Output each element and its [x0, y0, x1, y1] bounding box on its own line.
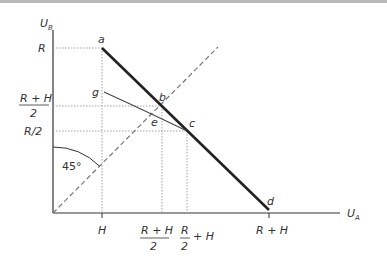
x-tick-rh: R + H — [256, 224, 288, 237]
y-tick-r: R — [38, 42, 46, 55]
x-tick-h: H — [98, 224, 106, 237]
point-g-label: g — [92, 86, 99, 99]
x-tick-rh2-den: 2 — [150, 240, 157, 253]
x-tick-r2h-den: 2 — [181, 240, 188, 253]
45-degree-line — [53, 47, 218, 213]
dotted-guides — [53, 48, 187, 213]
utility-diagram: UB UA R R + H 2 R/2 H R + H 2 R 2 + H R … — [0, 0, 387, 262]
x-tick-r2h-plus: + H — [193, 230, 214, 243]
y-axis-label: UB — [40, 17, 53, 32]
curve-gc — [104, 92, 187, 131]
y-tick-rh2-num: R + H — [20, 92, 52, 105]
y-tick-r2: R/2 — [24, 125, 42, 138]
frontier-line-ad — [102, 48, 269, 210]
point-e-label: e — [151, 116, 158, 129]
point-d-label: d — [267, 195, 275, 208]
x-tick-rh2-num: R + H — [141, 224, 173, 237]
point-a-label: a — [98, 33, 105, 46]
y-tick-rh2-den: 2 — [30, 107, 37, 120]
x-tick-r2h-num: R — [181, 224, 189, 237]
point-c-label: c — [189, 117, 195, 130]
x-axis-label: UA — [347, 207, 360, 222]
point-b-label: b — [159, 91, 166, 104]
angle-label: 45° — [62, 160, 82, 173]
